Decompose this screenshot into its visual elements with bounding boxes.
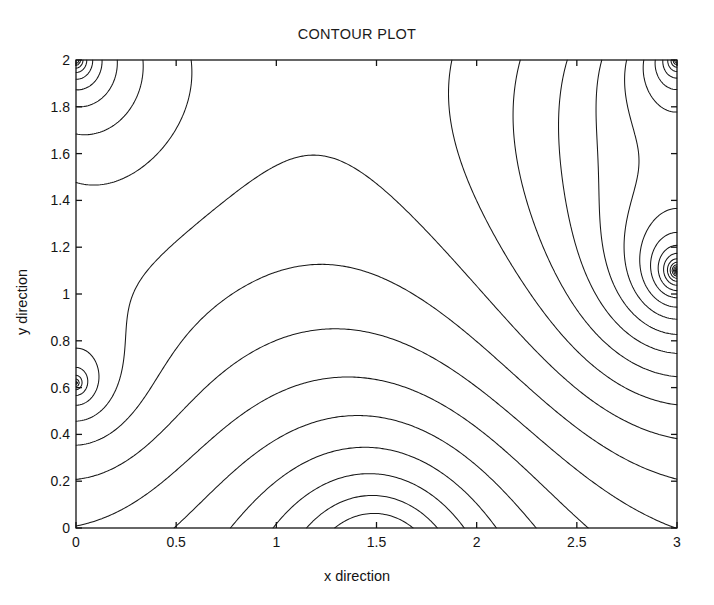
x-axis-tick-label: 0 [72, 534, 80, 550]
y-axis-tick-label: 0.8 [24, 333, 70, 349]
contour-line [76, 60, 83, 68]
contour-line [76, 60, 102, 90]
plot-frame [76, 60, 677, 528]
contour-line [449, 60, 677, 405]
contour-line [230, 447, 496, 528]
contour-line [76, 60, 143, 135]
contour-line [76, 60, 117, 107]
contour-line [624, 60, 677, 319]
x-axis-label: x direction [0, 568, 714, 584]
contour-line [513, 60, 677, 377]
contour-line [643, 60, 677, 112]
contour-line [655, 60, 677, 90]
y-axis-tick-label: 1 [24, 286, 70, 302]
x-axis-tick-label: 0.5 [166, 534, 185, 550]
contour-line [335, 513, 413, 528]
x-axis-tick-label: 2.5 [567, 534, 586, 550]
contour-line [76, 60, 87, 73]
y-axis-label: y direction [14, 242, 30, 362]
contour-line [273, 474, 464, 528]
contour-line [76, 60, 93, 79]
contour-line [640, 208, 677, 307]
contour-line [76, 264, 677, 479]
x-axis-tick-label: 1.5 [367, 534, 386, 550]
y-axis-tick-label: 1.2 [24, 239, 70, 255]
y-axis-tick-label: 1.4 [24, 192, 70, 208]
contour-line [307, 495, 438, 528]
contour-lines [76, 60, 677, 528]
y-axis-tick-label: 0.6 [24, 380, 70, 396]
y-axis-tick-label: 0.4 [24, 426, 70, 442]
contour-line [76, 60, 192, 185]
y-axis-tick-label: 0 [24, 520, 70, 536]
contour-line [663, 60, 677, 78]
plot-axes [76, 60, 677, 528]
contour-plot-figure: CONTOUR PLOT 00.511.522.5300.20.40.60.81… [0, 0, 714, 605]
x-axis-tick-label: 1 [272, 534, 280, 550]
x-axis-tick-label: 3 [673, 534, 681, 550]
contour-line [76, 155, 677, 439]
contour-line [174, 416, 536, 528]
y-axis-tick-label: 0.2 [24, 473, 70, 489]
contour-line [76, 377, 588, 528]
x-axis-tick-label: 2 [473, 534, 481, 550]
contour-plot-canvas [0, 0, 714, 605]
y-axis-tick-label: 1.6 [24, 146, 70, 162]
y-axis-tick-label: 1.8 [24, 99, 70, 115]
y-axis-tick-label: 2 [24, 52, 70, 68]
